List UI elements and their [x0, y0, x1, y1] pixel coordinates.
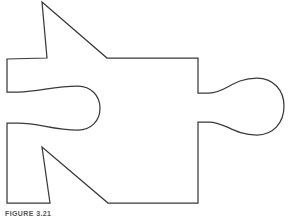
figure-page: Jigsaw puzzle piece outline FIGURE 3.21	[0, 0, 290, 220]
figure-caption: FIGURE 3.21	[5, 209, 205, 218]
puzzle-piece-figure: Jigsaw puzzle piece outline	[0, 0, 290, 220]
